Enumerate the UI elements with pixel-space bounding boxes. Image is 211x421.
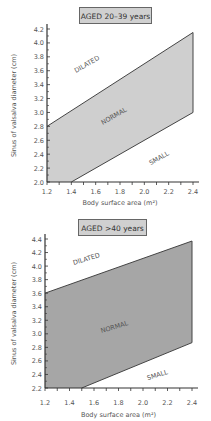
x-tick-label: 2.4: [188, 188, 198, 196]
x-axis-label: Body surface area (m²): [82, 199, 157, 207]
x-tick-label: 1.6: [90, 188, 100, 196]
x-tick-label: 1.6: [89, 399, 99, 407]
y-tick-label: 3.4: [32, 303, 42, 311]
region-label-dilated: DILATED: [73, 54, 101, 75]
x-tick-label: 2.4: [187, 399, 197, 407]
x-tick-label: 1.4: [64, 399, 74, 407]
y-axis-label: Sinus of valsalva diameter (cm): [10, 54, 18, 157]
y-tick-label: 3.8: [32, 276, 42, 284]
x-tick-label: 2.2: [162, 399, 172, 407]
y-tick-label: 2.8: [34, 123, 44, 131]
y-tick-label: 2.4: [32, 371, 42, 379]
y-axis-label: Sinus of valsalva diameter (cm): [10, 262, 18, 365]
region-label-small: SMALL: [146, 368, 169, 382]
x-tick-label: 1.8: [113, 399, 123, 407]
y-tick-label: 3.6: [34, 67, 44, 75]
y-tick-label: 2.6: [32, 357, 42, 365]
chart-plot: 2.02.22.42.62.83.03.23.43.63.84.04.21.21…: [0, 0, 211, 210]
x-tick-label: 2.0: [138, 399, 148, 407]
y-tick-label: 4.2: [32, 249, 42, 257]
y-tick-label: 2.0: [34, 179, 44, 187]
x-tick-label: 1.2: [42, 188, 52, 196]
x-tick-label: 2.2: [163, 188, 173, 196]
y-tick-label: 3.2: [34, 95, 44, 103]
chart-aged-20-39: AGED 20–39 years 2.02.22.42.62.83.03.23.…: [0, 0, 211, 210]
y-tick-label: 4.4: [32, 236, 42, 244]
y-tick-label: 2.2: [32, 385, 42, 393]
y-tick-label: 3.2: [32, 317, 42, 325]
y-tick-label: 3.0: [32, 330, 42, 338]
normal-region: [45, 241, 192, 388]
region-label-dilated: DILATED: [72, 251, 101, 267]
y-tick-label: 2.2: [34, 165, 44, 173]
y-tick-label: 2.8: [32, 344, 42, 352]
y-tick-label: 3.8: [34, 53, 44, 61]
y-tick-label: 3.6: [32, 290, 42, 298]
y-tick-label: 2.6: [34, 137, 44, 145]
chart-plot: 2.22.42.62.83.03.23.43.63.84.04.24.41.21…: [0, 210, 211, 421]
x-axis-label: Body surface area (m²): [81, 411, 156, 419]
y-tick-label: 4.0: [32, 263, 42, 271]
y-tick-label: 2.4: [34, 151, 44, 159]
y-tick-label: 3.4: [34, 81, 44, 89]
y-tick-label: 3.0: [34, 109, 44, 117]
x-tick-label: 1.8: [115, 188, 125, 196]
y-tick-label: 4.2: [34, 26, 44, 34]
x-tick-label: 2.0: [139, 188, 149, 196]
x-tick-label: 1.4: [66, 188, 76, 196]
x-tick-label: 1.2: [40, 399, 50, 407]
chart-aged-over-40: AGED >40 years 2.22.42.62.83.03.23.43.63…: [0, 210, 211, 420]
y-tick-label: 4.0: [34, 39, 44, 47]
region-label-small: SMALL: [148, 149, 171, 167]
